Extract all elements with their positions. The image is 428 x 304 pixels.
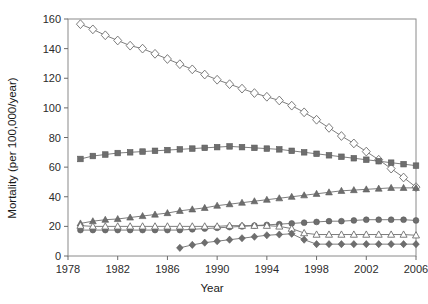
filled-square-marker [214, 144, 220, 150]
x-tick-label: 2002 [354, 263, 378, 275]
filled-circle-marker [351, 218, 357, 224]
x-tick-label: 1978 [56, 263, 80, 275]
filled-square-marker [152, 148, 158, 154]
x-tick-label: 1982 [105, 263, 129, 275]
filled-square-marker [189, 146, 195, 152]
y-tick-label: 40 [49, 191, 61, 203]
filled-circle-marker [326, 218, 332, 224]
y-tick-label: 20 [49, 220, 61, 232]
y-axis-title: Mortality (per 100,000/year) [6, 77, 18, 218]
filled-square-marker [264, 146, 270, 152]
y-tick-label: 0 [55, 250, 61, 262]
filled-square-marker [227, 144, 233, 150]
x-tick-label: 1990 [205, 263, 229, 275]
filled-square-marker [301, 150, 307, 156]
filled-square-marker [165, 147, 171, 153]
filled-square-marker [115, 150, 121, 156]
filled-square-marker [127, 150, 133, 156]
filled-circle-marker [301, 220, 307, 226]
filled-square-marker [401, 161, 407, 167]
filled-square-marker [177, 147, 183, 153]
filled-circle-marker [401, 217, 407, 223]
filled-circle-marker [413, 218, 419, 224]
filled-circle-marker [388, 217, 394, 223]
filled-square-marker [363, 157, 369, 163]
filled-square-marker [102, 152, 108, 158]
y-tick-label: 120 [43, 72, 61, 84]
filled-square-marker [339, 154, 345, 160]
filled-square-marker [202, 145, 208, 151]
filled-square-marker [413, 163, 419, 169]
filled-square-marker [376, 158, 382, 164]
filled-circle-marker [376, 217, 382, 223]
filled-square-marker [78, 156, 84, 162]
filled-square-marker [252, 145, 258, 151]
filled-square-marker [140, 149, 146, 155]
mortality-line-chart: 020406080100120140160 197819821986199019… [0, 0, 428, 304]
filled-square-marker [326, 152, 332, 158]
y-tick-label: 80 [49, 132, 61, 144]
x-tick-label: 1998 [304, 263, 328, 275]
chart-page: 020406080100120140160 197819821986199019… [0, 0, 428, 304]
filled-square-marker [239, 144, 245, 150]
filled-circle-marker [314, 219, 320, 225]
filled-circle-marker [339, 218, 345, 224]
filled-square-marker [289, 148, 295, 154]
filled-square-marker [388, 160, 394, 166]
y-tick-label: 100 [43, 102, 61, 114]
y-tick-label: 160 [43, 13, 61, 25]
filled-square-marker [90, 153, 96, 159]
filled-square-marker [314, 151, 320, 157]
x-tick-label: 1994 [255, 263, 279, 275]
y-tick-label: 140 [43, 43, 61, 55]
x-tick-label: 2006 [404, 263, 428, 275]
x-tick-label: 1986 [155, 263, 179, 275]
filled-square-marker [351, 155, 357, 161]
filled-circle-marker [363, 217, 369, 223]
y-tick-label: 60 [49, 161, 61, 173]
filled-square-marker [276, 147, 282, 153]
x-axis-title: Year [200, 282, 223, 294]
